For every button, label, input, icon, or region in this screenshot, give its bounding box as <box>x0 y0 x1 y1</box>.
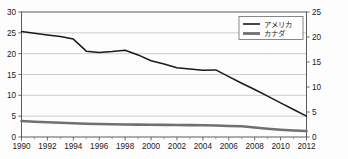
right-tick-label: 5 <box>312 108 317 117</box>
x-tick-label: 2008 <box>246 142 265 151</box>
right-axis-ticks <box>307 12 310 137</box>
series-america-line <box>22 32 307 117</box>
left-tick-label: 10 <box>7 91 17 100</box>
right-tick-label: 15 <box>312 58 322 67</box>
left-tick-label: 15 <box>7 71 17 80</box>
left-tick-label: 20 <box>7 50 17 59</box>
chart-legend: アメリカカナダ <box>239 17 303 40</box>
x-tick-label: 2002 <box>168 142 187 151</box>
dual-axis-line-chart: 1990199219941996199820002002200420062008… <box>0 0 348 159</box>
x-tick-label: 2010 <box>271 142 290 151</box>
x-tick-label: 1994 <box>64 142 83 151</box>
left-axis-ticks <box>18 12 21 137</box>
x-tick-label: 2012 <box>297 142 316 151</box>
legend-label-america: アメリカ <box>264 20 292 29</box>
x-tick-label: 1992 <box>38 142 57 151</box>
left-axis-tick-labels: 051015202530 <box>7 8 17 142</box>
line-series-canada <box>22 121 307 131</box>
left-tick-label: 5 <box>11 112 16 121</box>
gridlines-group <box>22 33 307 116</box>
line-series-america <box>22 32 307 117</box>
right-tick-label: 20 <box>312 33 322 42</box>
x-tick-label: 1990 <box>12 142 31 151</box>
left-tick-label: 25 <box>7 29 17 38</box>
x-tick-label: 1996 <box>90 142 109 151</box>
series-canada-line <box>22 121 307 131</box>
x-tick-label: 2004 <box>194 142 213 151</box>
right-tick-label: 0 <box>312 133 317 142</box>
right-axis-tick-labels: 0510152025 <box>312 8 322 142</box>
right-tick-label: 10 <box>312 83 322 92</box>
right-tick-label: 25 <box>312 8 322 17</box>
x-tick-label: 2000 <box>142 142 161 151</box>
x-axis-tick-labels: 1990199219941996199820002002200420062008… <box>12 142 316 151</box>
x-tick-label: 2006 <box>220 142 239 151</box>
chart-container: 1990199219941996199820002002200420062008… <box>0 0 348 159</box>
legend-label-canada: カナダ <box>264 29 286 38</box>
left-tick-label: 30 <box>7 8 17 17</box>
x-tick-label: 1998 <box>116 142 135 151</box>
left-tick-label: 0 <box>11 133 16 142</box>
x-axis-ticks <box>22 137 307 141</box>
